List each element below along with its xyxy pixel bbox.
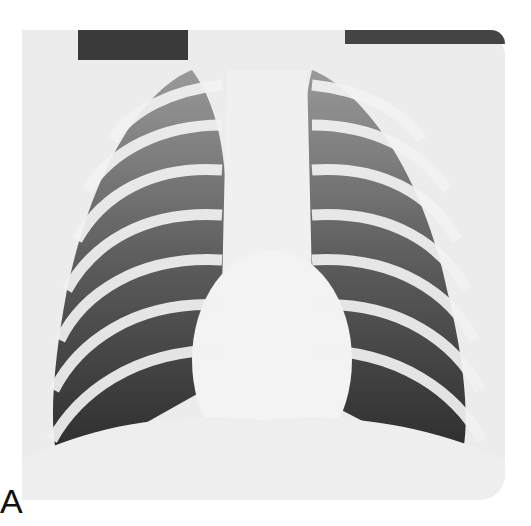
panel-label: A <box>0 484 23 518</box>
chest-xray-illustration <box>22 30 505 500</box>
xray-film <box>22 30 505 500</box>
film-corner-marker <box>345 30 505 44</box>
film-label-box <box>78 30 188 60</box>
